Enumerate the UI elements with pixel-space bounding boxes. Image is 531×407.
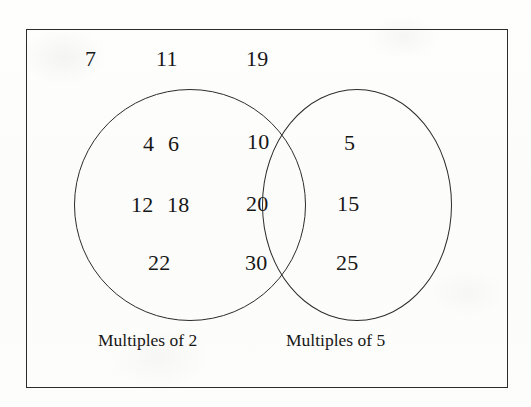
set-label-multiples-of-5: Multiples of 5 <box>286 332 385 350</box>
left-item-12: 12 <box>131 194 154 216</box>
outside-item-19: 19 <box>246 48 269 70</box>
right-item-25: 25 <box>336 252 359 274</box>
outside-item-7: 7 <box>85 48 96 70</box>
intersection-item-10: 10 <box>247 131 270 153</box>
left-item-18: 18 <box>167 194 190 216</box>
right-item-15: 15 <box>337 193 360 215</box>
left-item-22: 22 <box>148 252 171 274</box>
outside-item-11: 11 <box>156 48 178 70</box>
set-label-multiples-of-2: Multiples of 2 <box>98 332 197 350</box>
left-item-6: 6 <box>168 133 179 155</box>
venn-diagram-canvas: 7 11 19 4 6 12 18 22 10 20 30 5 15 25 Mu… <box>0 0 531 407</box>
left-item-4: 4 <box>143 133 154 155</box>
intersection-item-30: 30 <box>245 252 268 274</box>
intersection-item-20: 20 <box>246 193 269 215</box>
right-item-5: 5 <box>344 132 355 154</box>
